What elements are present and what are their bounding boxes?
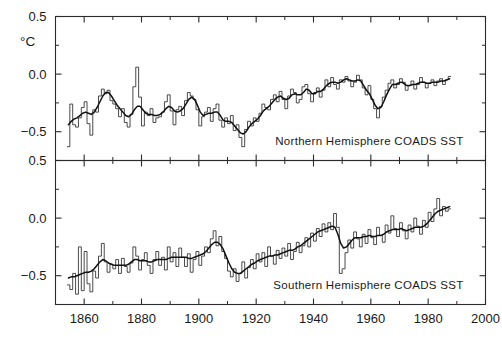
y-tick-label: 0.5 <box>28 9 46 24</box>
panel-northern-hemisphere: 0.50.0−0.5Northern Hemisphere COADS SST <box>21 9 486 161</box>
x-tick-label: 1960 <box>356 311 385 326</box>
y-tick-label: 0.5 <box>28 153 46 168</box>
x-tick-label: 1880 <box>127 311 156 326</box>
panel-caption-southern-hemisphere: Southern Hemisphere COADS SST <box>273 279 463 291</box>
panel-southern-hemisphere: 186018801900192019401960198020000.50.0−0… <box>21 153 500 326</box>
y-tick-label: 0.0 <box>28 211 46 226</box>
x-tick-label: 1860 <box>70 311 99 326</box>
series-smoothed-line <box>68 79 449 134</box>
y-axis-unit-label: °C <box>20 34 35 49</box>
figure-container: 0.50.0−0.5Northern Hemisphere COADS SST1… <box>0 0 502 339</box>
chart-render-layer: 0.50.0−0.5Northern Hemisphere COADS SST1… <box>20 9 500 326</box>
series-smoothed-line <box>68 207 449 278</box>
x-tick-label: 1940 <box>299 311 328 326</box>
x-tick-label: 2000 <box>471 311 500 326</box>
y-tick-label: 0.0 <box>28 67 46 82</box>
x-tick-label: 1900 <box>184 311 213 326</box>
sst-anomaly-chart: 0.50.0−0.5Northern Hemisphere COADS SST1… <box>0 0 502 339</box>
panel-caption-northern-hemisphere: Northern Hemisphere COADS SST <box>275 135 463 147</box>
x-tick-label: 1980 <box>414 311 443 326</box>
x-tick-label: 1920 <box>242 311 271 326</box>
y-tick-label: −0.5 <box>21 268 47 283</box>
y-tick-label: −0.5 <box>21 124 47 139</box>
